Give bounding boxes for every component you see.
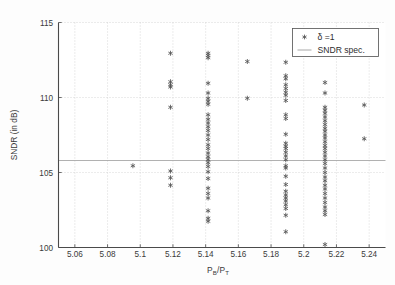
x-tick-label: 5.06	[67, 250, 83, 259]
y-tick-label: 105	[39, 169, 53, 178]
x-tick-labels: 5.065.085.15.125.145.165.185.25.225.24	[67, 250, 378, 259]
figure-canvas: 5.065.085.15.125.145.165.185.25.225.2410…	[0, 0, 395, 285]
y-axis-title: SNDR (in dB)	[9, 109, 19, 160]
x-tick-label: 5.08	[100, 250, 116, 259]
legend[interactable]: δ =1SNDR spec.	[293, 29, 379, 57]
x-axis-title: PB/PT	[207, 265, 229, 277]
y-tick-label: 100	[39, 244, 53, 253]
x-tick-label: 5.24	[361, 250, 377, 259]
x-tick-label: 5.22	[328, 250, 344, 259]
x-tick-label: 5.16	[230, 250, 246, 259]
x-tick-label: 5.12	[165, 250, 181, 259]
legend-label: SNDR spec.	[318, 45, 365, 55]
x-tick-label: 5.14	[198, 250, 214, 259]
x-tick-label: 5.1	[135, 250, 147, 259]
x-tick-label: 5.2	[298, 250, 310, 259]
x-tick-label: 5.18	[263, 250, 279, 259]
scatter-plot: 5.065.085.15.125.145.165.185.25.225.2410…	[0, 0, 395, 285]
x-axis-title-part: T	[225, 269, 229, 276]
y-tick-labels: 100105110115	[39, 19, 53, 253]
y-tick-label: 115	[40, 19, 53, 28]
y-tick-label: 110	[40, 94, 53, 103]
legend-label: δ =1	[318, 32, 335, 42]
